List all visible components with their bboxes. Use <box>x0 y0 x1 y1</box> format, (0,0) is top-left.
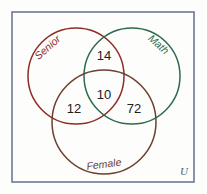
venn-diagram-canvas: Senior Math Female 14 10 12 72 U <box>0 0 207 194</box>
math-set-label: Math <box>146 32 171 57</box>
region-count-math-and-female-only: 72 <box>127 101 141 116</box>
venn-diagram-figure: Senior Math Female 14 10 12 72 U <box>0 0 207 194</box>
female-set-label: Female <box>86 156 122 172</box>
region-count-senior-and-math-only: 14 <box>97 48 111 63</box>
region-count-all-three: 10 <box>97 87 111 102</box>
universe-label: U <box>180 165 189 177</box>
region-count-senior-and-female-only: 12 <box>67 101 81 116</box>
